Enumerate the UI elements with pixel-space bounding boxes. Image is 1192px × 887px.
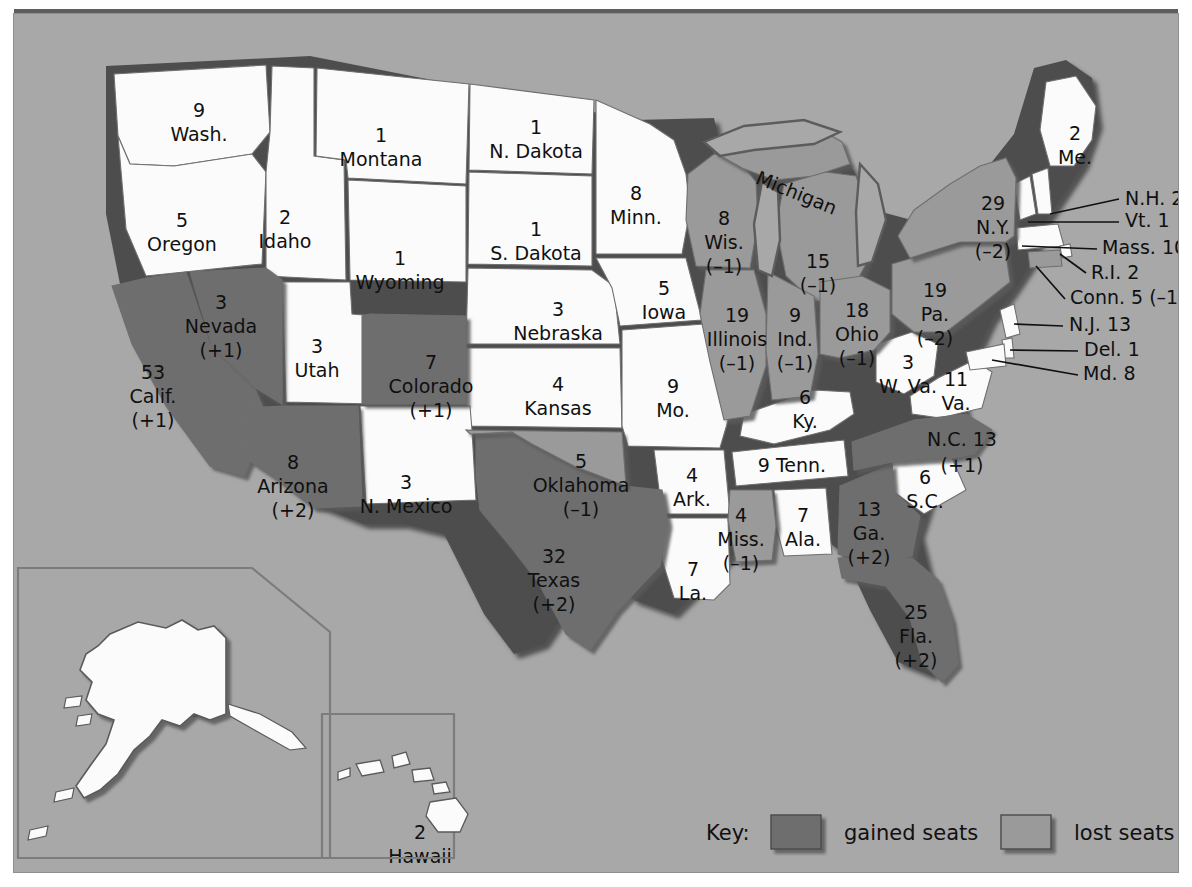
key-label: Key: xyxy=(706,821,750,845)
state-seats-nv: 3 xyxy=(215,291,227,313)
state-seats-or: 5 xyxy=(176,209,188,231)
alaska-inset xyxy=(18,568,330,858)
state-seats-mn: 8 xyxy=(630,182,642,204)
key-text-gained: gained seats xyxy=(844,821,978,845)
state-seats-ut: 3 xyxy=(311,335,323,357)
callout-line-nh xyxy=(1050,199,1119,214)
ak-aleutians-a xyxy=(64,696,82,708)
state-name-ne: Nebraska xyxy=(513,322,603,344)
state-change-nv: (+1) xyxy=(200,339,243,361)
callout-line-ct xyxy=(1036,266,1065,299)
state-seats-ar: 4 xyxy=(686,464,698,486)
state-name-va: Va. xyxy=(941,392,970,414)
callout-label-nj: N.J. 13 xyxy=(1069,313,1131,335)
state-ak xyxy=(76,620,226,798)
state-name-me: Me. xyxy=(1058,146,1092,168)
state-seats-co: 7 xyxy=(425,351,437,373)
state-seats-tx: 32 xyxy=(542,545,566,567)
callout-line-md xyxy=(992,360,1078,375)
state-change-mi: (–1) xyxy=(800,274,836,296)
state-name-nc: N.C. 13 xyxy=(927,428,997,450)
state-seats-mi: 15 xyxy=(806,250,830,272)
callout-label-ma: Mass. 10 xyxy=(1102,236,1178,258)
state-name-wi: Wis. xyxy=(704,231,744,253)
state-name-mo: Mo. xyxy=(656,399,690,421)
state-change-pa: (–2) xyxy=(917,327,953,349)
state-seats-ms: 4 xyxy=(735,504,747,526)
state-seats-az: 8 xyxy=(287,451,299,473)
callout-label-ct: Conn. 5 (–1) xyxy=(1070,286,1178,308)
state-change-il: (–1) xyxy=(719,352,755,374)
state-change-ny: (–2) xyxy=(975,240,1011,262)
state-name-wa: Wash. xyxy=(170,123,227,145)
state-seats-sc: 6 xyxy=(919,466,931,488)
state-name-tx: Texas xyxy=(527,569,581,591)
key-text-lost: lost seats xyxy=(1074,821,1174,845)
apportionment-map-page: 9Wash.5Oregon53Calif.(+1)2Idaho3Nevada(+… xyxy=(0,0,1192,887)
state-seats-mt: 1 xyxy=(375,124,387,146)
state-name-sd: S. Dakota xyxy=(490,242,581,264)
state-name-id: Idaho xyxy=(259,230,312,252)
state-name-fl: Fla. xyxy=(899,625,933,647)
state-name-oh: Ohio xyxy=(835,323,879,345)
state-change-nc: (+1) xyxy=(941,454,984,476)
state-name-al: Ala. xyxy=(785,528,821,550)
state-seats-sd: 1 xyxy=(530,218,542,240)
state-seats-hi: 2 xyxy=(414,821,426,843)
state-name-az: Arizona xyxy=(257,475,328,497)
state-seats-id: 2 xyxy=(279,206,291,228)
state-seats-ok: 5 xyxy=(575,450,587,472)
callout-label-de: Del. 1 xyxy=(1084,338,1140,360)
state-seats-ny: 29 xyxy=(981,192,1005,214)
state-change-ca: (+1) xyxy=(132,409,175,431)
ak-islands-e xyxy=(228,704,306,750)
state-change-fl: (+2) xyxy=(895,649,938,671)
state-change-oh: (–1) xyxy=(839,347,875,369)
state-seats-wa: 9 xyxy=(193,99,205,121)
map-frame: 9Wash.5Oregon53Calif.(+1)2Idaho3Nevada(+… xyxy=(14,14,1178,872)
state-name-nd: N. Dakota xyxy=(489,140,583,162)
state-change-az: (+2) xyxy=(272,499,315,521)
state-name-pa: Pa. xyxy=(921,303,949,325)
state-name-la: La. xyxy=(679,582,707,604)
key-swatch-lost xyxy=(1001,815,1051,849)
state-change-ms: (–1) xyxy=(723,552,759,574)
state-seats-ks: 4 xyxy=(552,373,564,395)
ak-aleutians-d xyxy=(28,826,48,840)
state-seats-va: 11 xyxy=(944,368,968,390)
state-name-ks: Kansas xyxy=(524,397,591,419)
callout-line-ri xyxy=(1060,254,1086,273)
state-name-nv: Nevada xyxy=(185,315,258,337)
state-seats-ga: 13 xyxy=(857,498,881,520)
state-seats-ky: 6 xyxy=(799,386,811,408)
state-name-nm: N. Mexico xyxy=(360,495,453,517)
state-seats-wi: 8 xyxy=(718,207,730,229)
state-seats-ia: 5 xyxy=(658,277,670,299)
key-swatch-gained xyxy=(771,815,821,849)
state-name-hi: Hawaii xyxy=(388,845,452,867)
ak-aleutians-b xyxy=(76,714,92,726)
callout-label-vt: Vt. 1 xyxy=(1125,209,1170,231)
callout-line-nj xyxy=(1014,324,1063,326)
state-name-il: Illinois xyxy=(707,328,767,350)
state-name-ia: Iowa xyxy=(642,301,686,323)
state-name-ut: Utah xyxy=(294,359,339,381)
hawaii-islands xyxy=(338,752,468,832)
state-name-ok: Oklahoma xyxy=(533,474,630,496)
state-seats-la: 7 xyxy=(687,558,699,580)
state-label-tn: 9 Tenn. xyxy=(758,454,826,476)
state-name-co: Colorado xyxy=(389,375,474,397)
callout-label-ri: R.I. 2 xyxy=(1091,261,1139,283)
state-name-wy: Wyoming xyxy=(355,271,444,293)
state-seats-nd: 1 xyxy=(530,116,542,138)
state-seats-pa: 19 xyxy=(923,279,947,301)
state-name-ar: Ark. xyxy=(673,488,711,510)
state-name-ga: Ga. xyxy=(853,522,885,544)
state-change-wi: (–1) xyxy=(706,255,742,277)
state-seats-me: 2 xyxy=(1069,122,1081,144)
state-name-mt: Montana xyxy=(340,148,423,170)
state-seats-ne: 3 xyxy=(552,298,564,320)
state-seats-il: 19 xyxy=(725,304,749,326)
state-change-co: (+1) xyxy=(410,399,453,421)
state-name-ky: Ky. xyxy=(792,410,818,432)
